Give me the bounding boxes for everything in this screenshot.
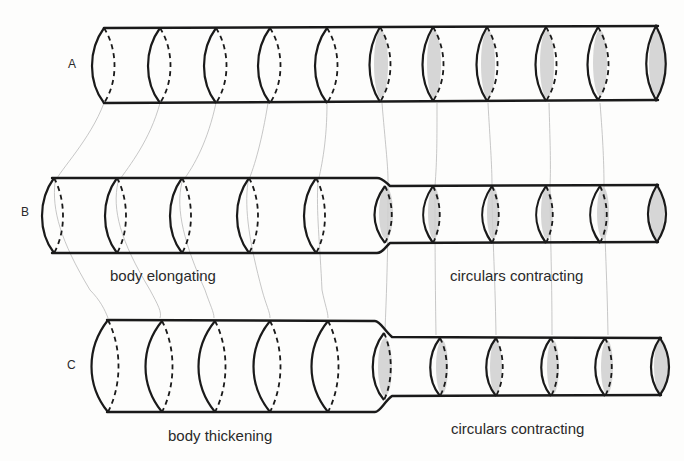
row-b-body-outline — [52, 178, 658, 253]
caption-circulars-contracting-b: circulars contracting — [450, 267, 583, 284]
row-label-a: A — [68, 57, 76, 71]
caption-body-elongating: body elongating — [110, 267, 216, 284]
row-b: B — [21, 178, 666, 284]
row-label-c: C — [67, 358, 76, 372]
segment-guide-lines — [54, 103, 608, 335]
row-c-contracted-segments — [378, 338, 668, 396]
row-a-contracted-segments — [374, 30, 665, 98]
row-label-b: B — [21, 205, 29, 219]
row-a: A — [68, 26, 666, 103]
peristalsis-diagram: A — [0, 0, 684, 461]
caption-body-thickening: body thickening — [168, 427, 272, 444]
row-c: C — [67, 320, 669, 444]
row-b-contracted-segments — [379, 187, 664, 239]
caption-circulars-contracting-c: circulars contracting — [451, 420, 584, 437]
